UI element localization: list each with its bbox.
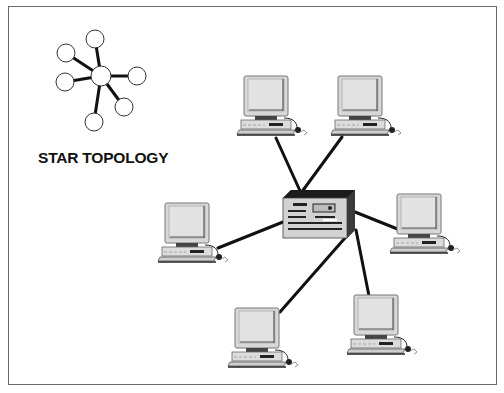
star-nodes [56,30,146,131]
star-hub-node [91,66,111,86]
workstation-icon [390,194,460,253]
workstation-icon [347,295,417,354]
server-icon [283,190,355,238]
star-node [115,98,133,116]
workstation-icon [228,308,298,367]
workstation-icon [331,76,401,135]
star-node [57,44,75,62]
star-topology-diagram [0,0,504,393]
workstation-icon [158,203,228,262]
cable-top-left [276,138,301,193]
workstation-icon [237,76,307,135]
cable-bottom-right [356,230,369,296]
star-node [86,30,104,48]
star-node [85,113,103,131]
star-node [128,67,146,85]
cable-bottom-left [280,230,352,312]
cable-top-right [301,137,342,193]
star-node [56,73,74,91]
cable-mid-left [218,220,288,248]
diagram-title: STAR TOPOLOGY [38,149,168,167]
